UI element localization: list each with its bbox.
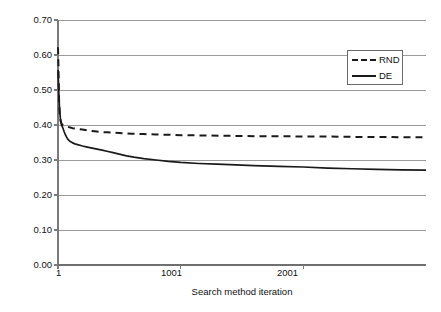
- legend-label-rnd: RND: [379, 55, 400, 65]
- plot-area: [0, 0, 441, 312]
- legend-entry-rnd: RND: [348, 52, 402, 68]
- legend-label-de: DE: [379, 71, 392, 81]
- legend-swatch-solid-icon: [352, 71, 376, 81]
- legend-entry-de: DE: [348, 68, 402, 84]
- chart-figure: Solution quality - lower is better 0.70 …: [0, 0, 441, 312]
- chart-legend: RND DE: [347, 50, 403, 85]
- legend-swatch-dashed-icon: [352, 55, 376, 65]
